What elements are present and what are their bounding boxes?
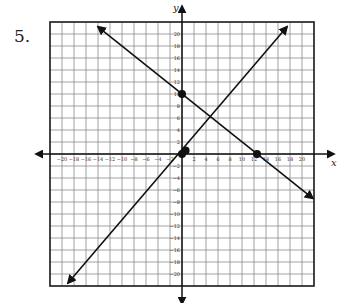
- plotted-point: [253, 150, 261, 158]
- y-tick-label: 8: [177, 103, 180, 109]
- y-tick-label: 2: [177, 139, 180, 145]
- y-tick-label: −2: [173, 163, 180, 169]
- y-tick-label: 4: [177, 127, 180, 133]
- x-tick-label: −20: [57, 156, 68, 162]
- y-tick-label: 14: [174, 67, 180, 73]
- y-tick-label: 12: [174, 79, 180, 85]
- y-tick-label: −16: [169, 247, 180, 253]
- y-tick-label: −6: [173, 187, 180, 193]
- x-tick-label: 20: [299, 156, 305, 162]
- x-tick-label: −4: [154, 156, 161, 162]
- y-tick-label: −14: [169, 235, 180, 241]
- x-tick-label: 2: [192, 156, 195, 162]
- x-tick-label: −6: [142, 156, 149, 162]
- line-decreasing: [98, 27, 313, 199]
- x-tick-label: −12: [105, 156, 116, 162]
- x-tick-label: −16: [81, 156, 92, 162]
- y-tick-label: −10: [169, 211, 180, 217]
- y-tick-label: 20: [174, 31, 180, 37]
- y-tick-label: 18: [174, 43, 180, 49]
- x-tick-label: 4: [204, 156, 207, 162]
- plotted-point: [182, 146, 190, 154]
- y-tick-label: 16: [174, 55, 180, 61]
- y-tick-label: 6: [177, 115, 180, 121]
- x-tick-label: 16: [275, 156, 281, 162]
- x-tick-label: 10: [239, 156, 245, 162]
- x-axis-label: x: [331, 157, 337, 168]
- x-tick-label: −18: [69, 156, 80, 162]
- x-tick-label: −14: [93, 156, 104, 162]
- x-tick-label: 6: [216, 156, 219, 162]
- x-tick-label: −10: [117, 156, 128, 162]
- x-tick-label: 18: [287, 156, 293, 162]
- x-tick-label: 8: [228, 156, 231, 162]
- y-tick-label: −8: [173, 199, 180, 205]
- y-tick-label: −4: [173, 175, 180, 181]
- y-axis-label: y: [172, 2, 179, 13]
- x-tick-label: −8: [130, 156, 137, 162]
- y-tick-label: −12: [169, 223, 180, 229]
- plotted-point: [178, 90, 186, 98]
- coordinate-plane: −20−18−16−14−12−10−8−6−4−224681012141618…: [0, 0, 340, 303]
- y-tick-label: −20: [169, 271, 180, 277]
- y-tick-label: −18: [169, 259, 180, 265]
